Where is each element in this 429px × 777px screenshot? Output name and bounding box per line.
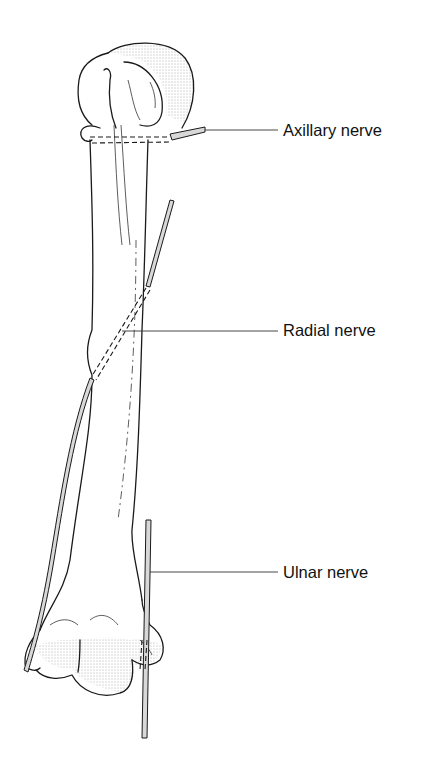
humerus-distal-end	[25, 600, 163, 695]
humeral-head	[78, 43, 194, 128]
radial-nerve	[24, 200, 174, 672]
ulnar-nerve	[140, 520, 151, 738]
axillary-nerve-label: Axillary nerve	[283, 122, 382, 139]
axillary-nerve	[81, 126, 205, 143]
radial-nerve-label: Radial nerve	[283, 322, 376, 339]
humerus-shaft	[40, 125, 148, 630]
ulnar-nerve-label: Ulnar nerve	[283, 564, 368, 581]
humerus-illustration	[0, 0, 429, 777]
